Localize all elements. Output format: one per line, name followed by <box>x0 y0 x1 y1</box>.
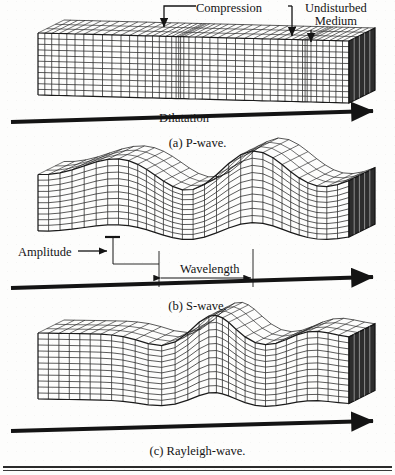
compression-label: Compression <box>196 2 262 15</box>
rayleigh-wave-mesh <box>38 302 375 406</box>
footer-rule-thin <box>3 470 392 471</box>
caption-s-wave: (b) S-wave. <box>0 299 395 314</box>
caption-rayleigh-wave: (c) Rayleigh-wave. <box>0 444 395 459</box>
amplitude-leader <box>78 237 159 264</box>
s-wave-mesh <box>38 138 375 239</box>
wavelength-label: Wavelength <box>180 263 239 276</box>
s-wave-direction-arrow <box>11 277 373 288</box>
rayleigh-wave-panel <box>11 302 375 431</box>
dilatation-label: Dilatation <box>159 112 209 125</box>
undisturbed-medium-label-line2: Medium <box>305 15 367 28</box>
figure-canvas <box>0 0 395 475</box>
footer-rule-thick <box>3 466 392 468</box>
amplitude-label: Amplitude <box>18 246 71 259</box>
undisturbed-medium-label: Undisturbed Medium <box>305 2 367 28</box>
caption-p-wave: (a) P-wave. <box>0 136 395 151</box>
p-wave-mesh <box>38 20 375 103</box>
seismic-wave-figure: Compression Undisturbed Medium Dilatatio… <box>0 0 395 475</box>
rayleigh-wave-direction-arrow <box>11 421 373 431</box>
